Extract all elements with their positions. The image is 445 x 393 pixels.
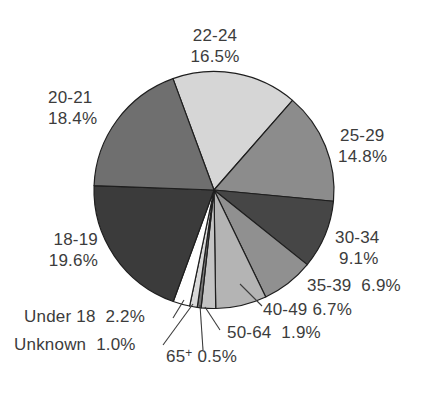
label-35-39-pct: 6.9% [361, 276, 401, 295]
label-25-29-name: 25-29 [338, 125, 387, 146]
label-35-39: 35-39 6.9% [307, 275, 401, 296]
label-under-18-name: Under 18 [24, 307, 96, 326]
label-50-64-name: 50-64 [227, 323, 271, 342]
label-65-plus-sup: + [185, 346, 192, 360]
leader-line-65 [200, 305, 203, 350]
label-25-29-pct: 14.8% [338, 146, 387, 167]
label-30-34-name: 30-34 [335, 227, 379, 248]
pie-slices [94, 72, 334, 309]
label-18-19-pct: 19.6% [30, 250, 98, 271]
label-under-18: Under 18 2.2% [24, 306, 145, 327]
label-20-21: 20-21 18.4% [48, 87, 97, 129]
label-22-24-pct: 16.5% [180, 46, 250, 67]
label-18-19: 18-19 19.6% [30, 229, 98, 271]
label-30-34-pct: 9.1% [335, 248, 379, 269]
label-under-18-pct: 2.2% [105, 307, 145, 326]
label-22-24-name: 22-24 [180, 25, 250, 46]
label-unknown-pct: 1.0% [96, 335, 136, 354]
label-40-49-pct: 6.7% [312, 300, 352, 319]
label-18-19-name: 18-19 [30, 229, 98, 250]
label-40-49: 40-49 6.7% [263, 299, 352, 320]
label-25-29: 25-29 14.8% [338, 125, 387, 167]
label-unknown-name: Unknown [14, 335, 86, 354]
label-35-39-name: 35-39 [307, 276, 351, 295]
label-50-64-pct: 1.9% [281, 323, 321, 342]
label-30-34: 30-34 9.1% [335, 227, 379, 269]
label-40-49-name: 40-49 [263, 300, 307, 319]
label-65-plus-name: 65 [166, 347, 185, 366]
label-22-24: 22-24 16.5% [180, 25, 250, 67]
label-unknown: Unknown 1.0% [14, 334, 136, 355]
label-65-plus: 65+ 0.5% [166, 346, 237, 367]
label-50-64: 50-64 1.9% [227, 322, 321, 343]
leader-line-50-64 [205, 307, 220, 330]
label-65-plus-pct: 0.5% [197, 347, 237, 366]
label-20-21-pct: 18.4% [48, 108, 97, 129]
label-20-21-name: 20-21 [48, 87, 97, 108]
